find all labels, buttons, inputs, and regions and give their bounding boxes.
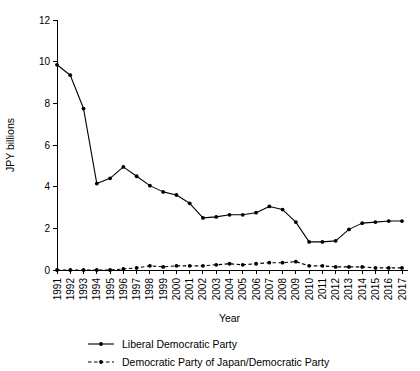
data-point [320,264,324,268]
x-axis-tick-label: 2001 [184,278,195,301]
data-point [307,264,311,268]
data-point [387,219,391,223]
data-point [374,220,378,224]
x-axis-tick-label: 2017 [397,278,408,301]
x-axis-tick-label: 2003 [211,278,222,301]
data-point [241,213,245,217]
y-axis-tick-label: 4 [44,181,50,192]
x-axis-tick-label: 2005 [237,278,248,301]
data-point [161,265,165,269]
x-axis-tick-label: 2013 [343,278,354,301]
y-axis-tick-label: 10 [39,56,51,67]
line-chart: 024681012JPY billions1991199219931994199… [0,0,420,371]
data-point [281,208,285,212]
legend-item: Democratic Party of Japan/Democratic Par… [88,356,330,368]
data-point [121,267,125,271]
data-point [201,264,205,268]
x-axis-tick-label: 1996 [118,278,129,301]
data-point [82,107,86,111]
data-point [95,268,99,272]
data-point [228,262,232,266]
data-point [214,215,218,219]
x-axis-tick-label: 2014 [357,278,368,301]
x-axis-tick-label: 2007 [264,278,275,301]
y-axis-tick-label: 0 [44,265,50,276]
x-axis-tick-label: 1993 [78,278,89,301]
x-axis-tick-label: 1992 [65,278,76,301]
data-point [68,73,72,77]
data-point [347,227,351,231]
data-point [188,264,192,268]
x-axis-tick-label: 1999 [158,278,169,301]
x-axis-tick-label: 2008 [277,278,288,301]
data-point [334,239,338,243]
x-axis-tick-label: 2004 [224,278,235,301]
data-point [374,266,378,270]
data-point [201,216,205,220]
x-axis-tick-label: 2006 [251,278,262,301]
data-point [108,268,112,272]
data-point [55,268,59,272]
x-axis-tick-label: 1995 [105,278,116,301]
x-axis-tick-label: 2012 [330,278,341,301]
data-point [360,221,364,225]
data-point [294,220,298,224]
x-axis-tick-label: 2015 [370,278,381,301]
x-axis-tick-label: 2009 [290,278,301,301]
y-axis-tick-label: 2 [44,223,50,234]
data-point [387,266,391,270]
x-axis-tick-label: 2002 [197,278,208,301]
data-point [281,261,285,265]
data-point [228,213,232,217]
x-axis-tick-label: 1991 [52,278,63,301]
x-axis-tick-label: 1998 [144,278,155,301]
x-axis: 1991199219931994199519961997199819992000… [52,270,409,300]
data-point [175,264,179,268]
x-axis-tick-label: 1997 [131,278,142,301]
data-point [294,260,298,264]
x-axis-tick-label: 2010 [304,278,315,301]
data-point [307,240,311,244]
data-point [360,265,364,269]
x-axis-tick-label: 1994 [91,278,102,301]
data-point [135,266,139,270]
data-point [400,266,404,270]
y-axis-tick-label: 8 [44,98,50,109]
data-point [400,219,404,223]
data-point [320,240,324,244]
data-point [188,201,192,205]
data-point [135,174,139,178]
data-point [82,268,86,272]
legend-marker [99,342,103,346]
data-point [267,205,271,209]
data-point [95,182,99,186]
data-point [214,263,218,267]
data-point [121,165,125,169]
data-point [334,265,338,269]
data-point [241,263,245,267]
y-axis-tick-label: 6 [44,140,50,151]
legend-label: Democratic Party of Japan/Democratic Par… [122,356,330,368]
x-axis-tick-label: 2000 [171,278,182,301]
y-axis: 024681012 [39,15,57,276]
data-point [68,268,72,272]
data-point [267,261,271,265]
x-axis-tick-label: 2011 [317,278,328,300]
chart-container: 024681012JPY billions1991199219931994199… [0,0,420,371]
data-point [108,176,112,180]
y-axis-title: JPY billions [4,118,16,172]
legend-item: Liberal Democratic Party [88,338,238,350]
data-point [175,193,179,197]
data-point [148,264,152,268]
data-point [55,63,59,67]
y-axis-tick-label: 12 [39,15,51,26]
data-point [347,265,351,269]
x-axis-tick-label: 2016 [383,278,394,301]
legend-label: Liberal Democratic Party [122,338,238,350]
data-series [55,63,404,244]
legend: Liberal Democratic PartyDemocratic Party… [88,338,330,368]
legend-marker [99,360,103,364]
data-point [254,262,258,266]
data-point [254,211,258,215]
data-point [148,184,152,188]
